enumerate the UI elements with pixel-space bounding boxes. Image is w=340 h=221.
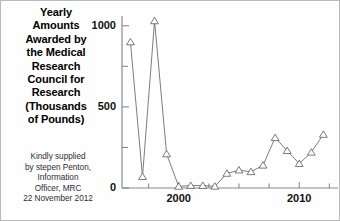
data-point-marker <box>163 150 171 156</box>
data-point-marker <box>235 167 243 173</box>
data-point-marker <box>271 134 279 140</box>
data-point-marker <box>151 17 159 23</box>
data-point-marker <box>139 173 147 179</box>
x-tick-label: 2000 <box>157 192 201 204</box>
x-tick-label: 2010 <box>277 192 321 204</box>
data-point-marker <box>307 149 315 155</box>
data-point-marker <box>259 162 267 168</box>
data-point-marker <box>319 131 327 137</box>
y-tick-label: 0 <box>82 181 116 193</box>
y-axis-ticks <box>122 26 129 188</box>
data-line-series <box>130 21 323 187</box>
y-tick-label: 500 <box>82 100 116 112</box>
axes <box>122 16 338 188</box>
data-point-marker <box>127 38 135 44</box>
line-chart-plot <box>0 0 340 221</box>
y-tick-label: 1000 <box>82 19 116 31</box>
